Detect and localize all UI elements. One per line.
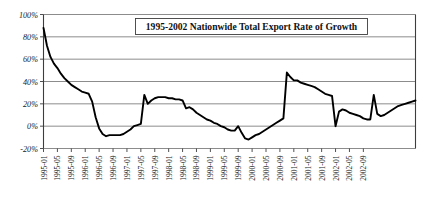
x-axis-tick-label: 1998-09 [192, 155, 201, 181]
x-axis-tick-label: 2002-01 [332, 155, 341, 181]
chart-title: 1995-2002 Nationwide Total Export Rate o… [136, 19, 368, 35]
y-axis-labels: 100%80%60%40%20%0%-20% [19, 11, 38, 154]
x-axis-tick-label: 1999-05 [220, 155, 229, 181]
x-axis-tick-label: 2000-09 [276, 155, 285, 181]
y-axis-tick-label: -20% [20, 145, 38, 154]
data-line-series [44, 28, 416, 140]
y-axis-tick-label: 0% [27, 122, 38, 131]
x-axis-tick-label: 1997-05 [137, 155, 146, 181]
y-axis-tick-label: 60% [23, 55, 38, 64]
y-axis-tick-label: 100% [19, 11, 38, 20]
x-axis-tick-label: 1998-05 [179, 155, 188, 181]
x-axis-tick-label: 1997-01 [123, 155, 132, 181]
line-chart: 100%80%60%40%20%0%-20% 1995-011995-05199… [0, 0, 431, 201]
y-axis-tick-label: 80% [23, 33, 38, 42]
x-axis-tick-label: 2001-05 [304, 155, 313, 181]
x-axis-tick-label: 1995-09 [67, 155, 76, 181]
x-axis-tick-label: 2000-05 [262, 155, 271, 181]
chart-container: 100%80%60%40%20%0%-20% 1995-011995-05199… [0, 0, 431, 201]
x-axis-tick-label: 1996-01 [81, 155, 90, 181]
x-axis-tick-label: 1998-01 [165, 155, 174, 181]
x-axis-tick-label: 2002-09 [359, 155, 368, 181]
x-axis-labels: 1995-011995-051995-091996-011996-051996-… [40, 155, 369, 181]
x-axis-tick-label: 1999-01 [206, 155, 215, 181]
x-axis-tick-label: 1995-01 [40, 155, 49, 181]
x-axis-tick-label: 2001-09 [318, 155, 327, 181]
x-axis-tick-label: 1995-05 [53, 155, 62, 181]
x-axis-tick-label: 1997-09 [151, 155, 160, 181]
x-axis-tick-label: 2000-01 [248, 155, 257, 181]
y-axis-tick-label: 40% [23, 78, 38, 87]
x-axis-tick-label: 1996-05 [95, 155, 104, 181]
x-axis-tick-label: 1999-09 [234, 155, 243, 181]
data-series-line [44, 28, 416, 140]
x-axis-tick-label: 2001-01 [290, 155, 299, 181]
chart-title-label: 1995-2002 Nationwide Total Export Rate o… [146, 21, 358, 32]
y-axis-tick-label: 20% [23, 100, 38, 109]
x-axis-ticks [44, 149, 364, 153]
x-axis-tick-label: 2002-05 [345, 155, 354, 181]
x-axis-tick-label: 1996-09 [109, 155, 118, 181]
